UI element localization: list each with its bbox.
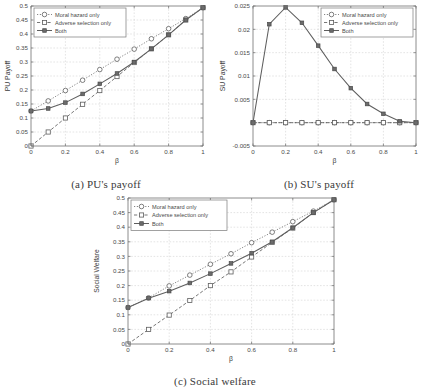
panel-social-welfare: 00.050.10.150.20.250.30.350.40.450.500.2…: [85, 192, 345, 384]
legend-label-0: Moral hazard only: [342, 12, 387, 18]
y-tick-label: 0.3: [116, 253, 125, 260]
data-point-square: [188, 298, 192, 302]
y-tick-label: 0.45: [16, 16, 29, 23]
data-point-filled-square: [268, 22, 272, 26]
x-tick-label: 0.6: [247, 346, 256, 353]
data-point-circle: [149, 36, 154, 41]
data-point-square: [208, 284, 212, 288]
x-tick-label: 0.8: [164, 148, 173, 155]
data-point-filled-square: [184, 18, 188, 22]
data-point-square: [63, 116, 67, 120]
y-tick-label: 0.1: [19, 114, 28, 121]
y-axis-title: Social Welfare: [93, 249, 100, 293]
data-point-square: [284, 121, 288, 125]
panel-su-payoff: -0.0050.0050.010.0150.020.02500.20.40.60…: [213, 0, 425, 192]
x-tick-label: 0: [126, 346, 130, 353]
data-point-square: [316, 121, 320, 125]
data-point-circle: [63, 88, 68, 93]
data-point-filled-square: [98, 82, 102, 86]
data-point-square: [98, 88, 102, 92]
y-tick-label: 0.02: [238, 26, 251, 33]
data-point-square: [300, 121, 304, 125]
chart-c-svg: 00.050.10.150.20.250.30.350.40.450.500.2…: [85, 192, 345, 380]
data-point-square: [147, 327, 151, 331]
y-axis-title: SU Payoff: [219, 61, 227, 92]
legend-label-2: Both: [152, 221, 164, 227]
data-point-filled-square: [382, 112, 386, 116]
x-tick-label: 0: [29, 148, 33, 155]
legend-label-1: Adverse selection only: [342, 20, 398, 26]
x-tick-label: 1: [332, 346, 336, 353]
legend-label-2: Both: [55, 28, 67, 34]
y-tick-label: 0.5: [19, 2, 28, 9]
plot-area-c: 00.050.10.150.20.250.30.350.40.450.500.2…: [85, 192, 345, 384]
legend-marker-circle: [42, 12, 47, 17]
caption-b: (b) SU's payoff: [213, 178, 425, 190]
legend-marker-circle: [329, 12, 334, 17]
data-point-circle: [115, 57, 120, 62]
data-point-filled-square: [167, 289, 171, 293]
data-point-filled-square: [312, 211, 316, 215]
data-point-filled-square: [46, 107, 50, 111]
legend-marker-square: [139, 213, 143, 217]
data-point-filled-square: [300, 21, 304, 25]
legend: Moral hazard onlyAdverse selection onlyB…: [131, 200, 227, 231]
data-point-circle: [291, 219, 296, 224]
legend-marker-circle: [139, 204, 144, 209]
y-tick-label: 0.05: [113, 326, 126, 333]
y-tick-label: 0.15: [16, 100, 29, 107]
x-tick-label: 0.8: [379, 148, 388, 155]
x-tick-label: 0.2: [165, 346, 174, 353]
data-point-filled-square: [270, 240, 274, 244]
legend-label-2: Both: [342, 28, 354, 34]
legend-label-0: Moral hazard only: [152, 204, 197, 210]
x-tick-label: 0.2: [281, 148, 290, 155]
data-point-circle: [46, 99, 51, 104]
x-axis-title: β: [115, 157, 119, 165]
y-tick-label: 0.2: [19, 86, 28, 93]
data-point-circle: [249, 240, 254, 245]
data-point-filled-square: [209, 272, 213, 276]
x-tick-label: 0: [251, 148, 255, 155]
data-point-filled-square: [147, 296, 151, 300]
plot-area-a: 00.050.10.150.20.250.30.350.40.450.500.2…: [0, 0, 212, 192]
y-tick-label: 0.005: [235, 96, 251, 103]
data-point-filled-square: [229, 262, 233, 266]
data-point-circle: [132, 47, 137, 52]
data-point-filled-square: [64, 101, 68, 105]
y-tick-label: 0.4: [19, 30, 28, 37]
data-point-square: [381, 121, 385, 125]
x-axis-title: β: [229, 355, 233, 363]
data-point-filled-square: [115, 72, 119, 76]
data-point-square: [46, 130, 50, 134]
data-point-circle: [188, 273, 193, 278]
plot-area-b: -0.0050.0050.010.0150.020.02500.20.40.60…: [213, 0, 425, 192]
data-point-circle: [167, 284, 172, 289]
data-point-filled-square: [81, 92, 85, 96]
data-point-square: [365, 121, 369, 125]
y-tick-label: 0.35: [113, 238, 126, 245]
y-tick-label: 0.025: [235, 2, 251, 9]
y-tick-label: 0.2: [116, 282, 125, 289]
data-point-circle: [80, 78, 85, 83]
data-point-square: [81, 102, 85, 106]
y-tick-label: 0.35: [16, 44, 29, 51]
data-point-square: [349, 121, 353, 125]
data-point-filled-square: [316, 44, 320, 48]
y-tick-label: 0.5: [116, 194, 125, 201]
caption-a: (a) PU's payoff: [0, 178, 212, 190]
legend-label-1: Adverse selection only: [55, 20, 111, 26]
chart-a-svg: 00.050.10.150.20.250.30.350.40.450.500.2…: [0, 0, 212, 175]
x-tick-label: 1: [414, 148, 418, 155]
legend-marker-filled-square: [330, 29, 334, 33]
y-tick-label: 0.05: [16, 128, 29, 135]
y-tick-label: 0.45: [113, 209, 126, 216]
data-point-circle: [98, 67, 103, 72]
data-point-circle: [270, 230, 275, 235]
data-point-filled-square: [398, 119, 402, 123]
data-point-square: [229, 270, 233, 274]
chart-b-svg: -0.0050.0050.010.0150.020.02500.20.40.60…: [213, 0, 425, 175]
y-tick-label: 0.015: [235, 49, 251, 56]
legend: Moral hazard onlyAdverse selection onlyB…: [34, 8, 126, 37]
